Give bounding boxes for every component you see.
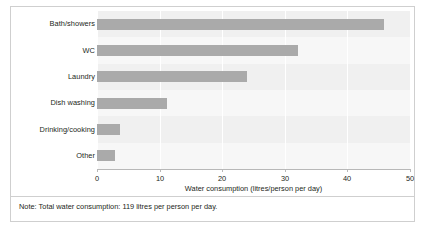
category-label-wc: WC — [11, 37, 95, 63]
x-axis-tick — [347, 169, 348, 172]
bar-drinking-cooking — [97, 124, 120, 135]
category-axis: Bath/showers WC Laundry Dish washing Dri… — [11, 11, 95, 169]
x-axis-tick — [410, 169, 411, 172]
bar-wc — [97, 45, 298, 56]
figure-frame: Bath/showers WC Laundry Dish washing Dri… — [10, 6, 415, 222]
x-axis-tick-label: 10 — [156, 173, 164, 184]
table-row — [97, 11, 410, 37]
category-label-bath-showers: Bath/showers — [11, 11, 95, 37]
x-axis-tick-labels: 01020304050 — [97, 173, 410, 184]
x-axis-tick — [160, 169, 161, 172]
bar-dish-washing — [97, 98, 167, 109]
table-row — [97, 37, 410, 63]
category-label-other: Other — [11, 143, 95, 169]
x-axis-tick — [222, 169, 223, 172]
table-row — [97, 90, 410, 116]
x-axis-tick-label: 0 — [95, 173, 99, 184]
bar-laundry — [97, 71, 247, 82]
chart-area: Bath/showers WC Laundry Dish washing Dri… — [11, 7, 414, 196]
x-axis-tick-label: 20 — [218, 173, 226, 184]
figure-note: Note: Total water consumption: 119 litre… — [19, 201, 406, 212]
x-axis-tick-label: 30 — [281, 173, 289, 184]
x-axis-tick-label: 50 — [406, 173, 414, 184]
x-axis-tick — [97, 169, 98, 172]
table-row — [97, 143, 410, 169]
plot-area — [97, 11, 410, 169]
x-axis-tick-label: 40 — [343, 173, 351, 184]
category-label-laundry: Laundry — [11, 64, 95, 90]
category-label-dish-washing: Dish washing — [11, 90, 95, 116]
x-axis-tick — [285, 169, 286, 172]
bar-series — [97, 11, 410, 169]
table-row — [97, 64, 410, 90]
x-axis-title: Water consumption (litres/person per day… — [97, 184, 410, 193]
category-label-drinking-cooking: Drinking/cooking — [11, 116, 95, 142]
bar-other — [97, 150, 115, 161]
note-divider — [11, 196, 414, 197]
table-row — [97, 116, 410, 142]
bar-bath-showers — [97, 19, 384, 30]
